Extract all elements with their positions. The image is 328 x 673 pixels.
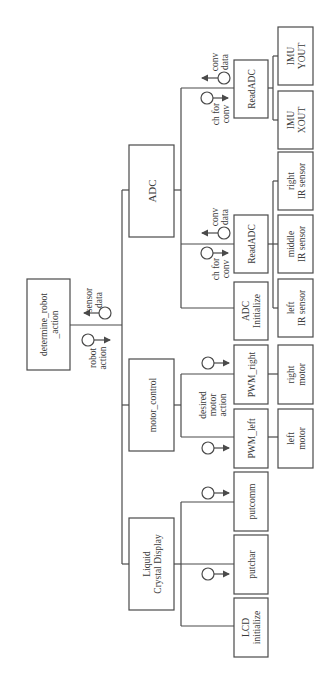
imu-yout-label-1: IMU (286, 47, 296, 66)
adc-init-label-1: ADC (241, 301, 251, 321)
conv-data-mid-label-2: data (220, 208, 230, 225)
sensor-data-label-1: sensor (84, 287, 94, 312)
pwm-left-label: PWM_left (247, 418, 257, 458)
conv-data-top-label-1: conv (210, 53, 220, 72)
desired-motor-action-label-3: action (218, 393, 228, 416)
root-label-2: _action (50, 310, 60, 339)
lcd-initialize-box (234, 598, 268, 657)
conv-data-top-couple-icon (202, 72, 230, 84)
structure-chart: determine_robot _action sensor data robo… (0, 0, 328, 673)
imu-yout-box (278, 27, 313, 85)
determine-robot-action-box (27, 279, 70, 370)
ch-for-conv-mid-label-1: ch for (211, 257, 221, 280)
readadc-top-label: ReadADC (247, 69, 257, 109)
imu-xout-label-1: IMU (286, 111, 296, 130)
pwm-right-label: PWM_right (247, 351, 257, 397)
left-motor-box (278, 409, 313, 468)
imu-xout-label-2: XOUT (297, 107, 307, 134)
middle-ir-label-1: middle (286, 231, 296, 257)
putcomm-label: putcomm (247, 483, 257, 519)
imu-yout-label-2: YOUT (297, 43, 307, 70)
conv-data-mid-label-1: conv (210, 208, 220, 227)
robot-action-couple-icon (82, 334, 110, 346)
ch-for-conv-top-couple-icon (201, 92, 228, 104)
left-ir-label-1: left (286, 301, 296, 314)
right-ir-label-2: IR sensor (297, 162, 307, 199)
adc-label: ADC (146, 179, 158, 202)
root-label-1: determine_robot (39, 293, 49, 356)
lcd-label-2: Crystal Display (153, 534, 163, 594)
pwm-left-couple-icon (202, 442, 229, 454)
putchar-label: putchar (247, 549, 257, 578)
left-ir-sensor-box (278, 279, 313, 337)
adc-initialize-box (234, 282, 268, 340)
adc-init-label-2: Initialize (252, 294, 262, 328)
left-motor-label-1: left (286, 432, 296, 445)
putchar-couple-icon (202, 568, 229, 580)
right-ir-label-1: right (286, 172, 296, 190)
robot-action-label-2: action (98, 346, 108, 369)
desired-motor-action-label-1: desired (198, 391, 208, 419)
lcd-init-label-2: initialize (252, 611, 262, 644)
imu-xout-box (278, 91, 313, 149)
conv-data-mid-couple-icon (202, 227, 230, 239)
left-ir-label-2: IR sensor (297, 289, 307, 326)
desired-motor-action-label-2: motor (208, 393, 218, 417)
right-motor-label-1: right (286, 365, 296, 383)
middle-ir-label-2: IR sensor (297, 225, 307, 262)
readadc-mid-label: ReadADC (247, 224, 257, 264)
lcd-label-1: Liquid (142, 551, 152, 577)
ch-for-conv-top-label-2: conv (221, 105, 231, 124)
right-ir-sensor-box (278, 152, 313, 210)
conv-data-top-label-2: data (220, 53, 230, 70)
right-motor-label-2: motor (297, 362, 307, 386)
ch-for-conv-mid-label-2: conv (221, 260, 231, 279)
middle-ir-sensor-box (278, 215, 313, 273)
pwm-right-couple-icon (202, 357, 229, 369)
ch-for-conv-top-label-1: ch for (211, 102, 221, 125)
sensor-data-label-2: data (94, 291, 104, 308)
lcd-init-label-1: LCD (241, 618, 251, 637)
lcd-box (129, 518, 174, 610)
robot-action-label-1: robot (88, 348, 98, 368)
right-motor-box (278, 345, 313, 404)
ch-for-conv-mid-couple-icon (201, 247, 228, 259)
motor-control-label: motor_control (148, 377, 158, 432)
left-motor-label-2: motor (297, 426, 307, 450)
putcomm-couple-icon (202, 487, 229, 499)
